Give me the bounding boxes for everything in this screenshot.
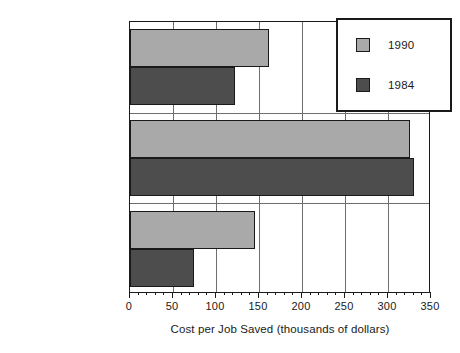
- tick-minor-110: [224, 292, 225, 295]
- tick-minor-180: [284, 292, 285, 295]
- tick-label-100: 100: [206, 300, 225, 312]
- tick-minor-120: [232, 292, 233, 295]
- bar-chart-figure: 050100150200250300350 TotalAll Other Sec…: [0, 0, 460, 353]
- tick-minor-40: [163, 292, 164, 295]
- legend-entry-1984: 1984: [356, 78, 414, 92]
- tick-major-200: [301, 292, 302, 298]
- tick-minor-90: [206, 292, 207, 295]
- tick-label-300: 300: [378, 300, 397, 312]
- tick-label-50: 50: [166, 300, 179, 312]
- bar-total-1984: [130, 67, 235, 105]
- tick-minor-70: [189, 292, 190, 295]
- tick-minor-80: [198, 292, 199, 295]
- tick-minor-60: [181, 292, 182, 295]
- tick-minor-210: [310, 292, 311, 295]
- tick-major-50: [172, 292, 173, 298]
- legend-swatch-1984: [356, 78, 370, 92]
- bar-textiles-and-apparel-1984: [130, 249, 194, 287]
- tick-minor-280: [370, 292, 371, 295]
- tick-minor-270: [361, 292, 362, 295]
- tick-major-250: [344, 292, 345, 298]
- legend-entry-1990: 1990: [356, 38, 414, 52]
- tick-major-150: [258, 292, 259, 298]
- tick-major-100: [215, 292, 216, 298]
- category-separator-1: [130, 113, 429, 114]
- tick-minor-130: [241, 292, 242, 295]
- tick-minor-20: [146, 292, 147, 295]
- tick-minor-340: [421, 292, 422, 295]
- tick-minor-190: [292, 292, 293, 295]
- tick-label-200: 200: [292, 300, 311, 312]
- tick-label-250: 250: [335, 300, 354, 312]
- bar-total-1990: [130, 29, 269, 67]
- tick-minor-260: [353, 292, 354, 295]
- legend: 1990 1984: [336, 18, 452, 112]
- legend-label-1984: 1984: [388, 79, 414, 91]
- tick-minor-220: [318, 292, 319, 295]
- tick-label-350: 350: [421, 300, 440, 312]
- x-axis-title: Cost per Job Saved (thousands of dollars…: [129, 323, 431, 335]
- bar-textiles-and-apparel-1990: [130, 211, 255, 249]
- tick-minor-10: [138, 292, 139, 295]
- tick-minor-290: [378, 292, 379, 295]
- tick-minor-170: [275, 292, 276, 295]
- tick-minor-320: [404, 292, 405, 295]
- tick-minor-330: [413, 292, 414, 295]
- tick-label-150: 150: [249, 300, 268, 312]
- tick-label-0: 0: [126, 300, 132, 312]
- x-axis-line: [129, 292, 431, 293]
- tick-minor-160: [267, 292, 268, 295]
- tick-minor-30: [155, 292, 156, 295]
- tick-minor-310: [396, 292, 397, 295]
- tick-major-350: [430, 292, 431, 298]
- legend-label-1990: 1990: [388, 39, 414, 51]
- tick-major-0: [129, 292, 130, 298]
- tick-minor-140: [249, 292, 250, 295]
- legend-swatch-1990: [356, 38, 370, 52]
- bar-all-other-sectors-1984: [130, 158, 414, 196]
- tick-major-300: [387, 292, 388, 298]
- tick-minor-240: [335, 292, 336, 295]
- tick-minor-230: [327, 292, 328, 295]
- bar-all-other-sectors-1990: [130, 120, 410, 158]
- category-separator-2: [130, 203, 429, 204]
